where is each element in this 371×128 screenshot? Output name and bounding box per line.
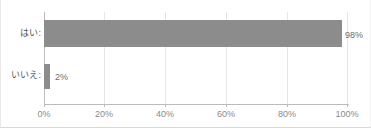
- tick-mark-60: [226, 104, 227, 107]
- x-tick-label-100: 100%: [327, 109, 367, 120]
- x-tick-label-20: 20%: [84, 109, 124, 120]
- plot-area: [44, 12, 348, 104]
- bar-hai: [44, 20, 342, 47]
- tick-mark-0: [44, 104, 45, 107]
- x-tick-label-0: 0%: [24, 109, 64, 120]
- tick-mark-80: [287, 104, 288, 107]
- tick-mark-20: [104, 104, 105, 107]
- category-label-iie: いいえ:: [1, 70, 41, 81]
- bar-value-iie: 2%: [55, 72, 68, 82]
- x-tick-label-60: 60%: [206, 109, 246, 120]
- tick-mark-40: [165, 104, 166, 107]
- category-label-hai: はい:: [1, 28, 41, 39]
- bar-iie: [44, 64, 50, 89]
- x-tick-label-40: 40%: [145, 109, 185, 120]
- bar-chart: はい: いいえ: 98% 2% 0% 20% 40% 60% 80% 100%: [0, 0, 371, 128]
- bar-value-hai: 98%: [345, 30, 363, 40]
- tick-mark-100: [347, 104, 348, 107]
- x-axis-line: [44, 104, 349, 105]
- gridline-100: [347, 12, 348, 104]
- x-tick-label-80: 80%: [267, 109, 307, 120]
